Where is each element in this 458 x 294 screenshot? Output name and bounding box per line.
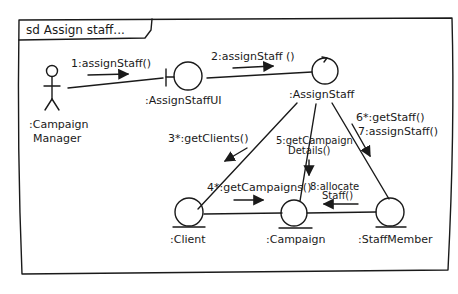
campaign-label: :Campaign <box>266 233 326 246</box>
link-campaign-staffmember <box>307 212 376 213</box>
control-label: :AssignStaff <box>289 88 355 101</box>
client-label: :Client <box>170 233 206 246</box>
message-7-label: 7:assignStaff() <box>358 125 438 138</box>
entity-client[interactable]: :Client <box>170 198 206 246</box>
control-arrow-icon <box>322 57 327 62</box>
staffmember-label: :StaffMember <box>358 233 433 246</box>
link-boundary-control <box>207 72 312 78</box>
link-actor-boundary <box>68 78 163 88</box>
message-3-label: 3*:getClients() <box>168 132 248 145</box>
message-1-label: 1:assignStaff() <box>71 57 151 70</box>
communication-diagram: sd Assign staff... :Campaign Manager 1:a… <box>0 0 458 294</box>
message-2-label: 2:assignStaff () <box>211 50 295 63</box>
control-circle-icon <box>312 58 338 84</box>
entity-staffmember[interactable]: :StaffMember <box>358 198 433 246</box>
actor-label-2: Manager <box>33 132 82 145</box>
control-assign-staff[interactable]: :AssignStaff <box>289 57 355 101</box>
actor-head-icon <box>47 66 58 77</box>
link-client-campaign <box>204 213 282 214</box>
message-1-arrow <box>88 74 128 75</box>
entity-circle-icon <box>281 200 307 226</box>
boundary-circle-icon <box>174 62 202 90</box>
message-8-label-line2: Staff() <box>322 190 353 201</box>
message-6-label: 6*:getStaff() <box>356 111 424 124</box>
entity-circle-icon <box>376 198 404 226</box>
entity-circle-icon <box>175 198 203 226</box>
message-4-label: 4*:getCampaigns() <box>207 181 311 194</box>
message-5-label-line2: Details() <box>288 145 331 156</box>
boundary-assign-staff-ui[interactable]: :AssignStaffUI <box>145 62 222 107</box>
message-2-arrow <box>233 66 273 68</box>
boundary-label: :AssignStaffUI <box>145 94 222 107</box>
actor-label: :Campaign <box>29 118 89 131</box>
frame-label: sd Assign staff... <box>26 23 125 37</box>
actor-campaign-manager[interactable]: :Campaign Manager <box>29 66 89 146</box>
entity-campaign[interactable]: :Campaign <box>266 200 326 246</box>
